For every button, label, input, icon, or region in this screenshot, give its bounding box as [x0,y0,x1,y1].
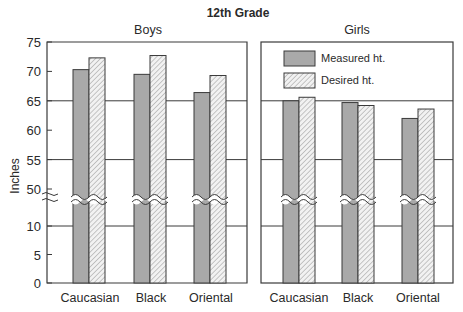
y-tick-label: 75 [27,35,41,50]
legend-label-measured: Measured ht. [321,52,385,64]
y-axis-label: Inches [8,158,22,193]
chart-panels: CaucasianBlackOrientalCaucasianBlackOrie… [47,42,453,305]
bar-desired-oriental [210,76,226,283]
chart-canvas: 12th Grade Boys Girls Inches 05105055606… [0,0,463,312]
bar-measured-black [134,74,150,283]
category-label: Caucasian [60,291,119,305]
chart-title: 12th Grade [207,6,270,20]
bar-desired-black [358,106,374,283]
legend-swatch-measured [284,51,315,66]
bar-desired-caucasian [89,58,105,283]
bar-measured-black [342,103,358,283]
y-axis-ticks: 0510505560657075 [27,35,58,291]
y-tick-label: 70 [27,64,41,79]
y-tick-label: 5 [34,248,41,263]
legend-swatch-desired [284,73,315,88]
panel-title-girls: Girls [344,23,370,37]
category-label: Oriental [189,291,233,305]
category-label: Oriental [396,291,440,305]
category-label: Caucasian [269,291,328,305]
panel-boys: CaucasianBlackOriental [47,42,247,305]
bar-measured-caucasian [73,70,89,283]
category-label: Black [343,291,374,305]
y-tick-label: 10 [27,219,41,234]
y-tick-label: 60 [27,123,41,138]
axis-break-icon [42,193,58,202]
y-tick-label: 50 [27,182,41,197]
panel-title-boys: Boys [134,23,162,37]
y-tick-label: 0 [34,276,41,291]
y-tick-label: 55 [27,153,41,168]
bar-desired-caucasian [299,97,315,283]
legend-label-desired: Desired ht. [321,74,374,86]
bar-measured-oriental [194,93,210,283]
bar-desired-black [150,56,166,283]
category-label: Black [136,291,167,305]
bar-measured-caucasian [283,101,299,283]
legend: Measured ht. Desired ht. [284,51,385,88]
y-tick-label: 65 [27,94,41,109]
